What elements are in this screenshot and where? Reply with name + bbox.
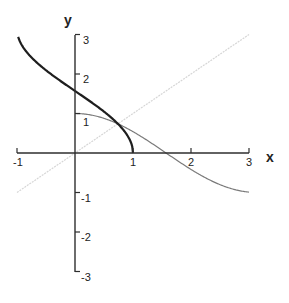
y-tick-label: 2: [83, 73, 89, 85]
y-tick-label: -1: [81, 192, 91, 204]
x-axis-label: x: [266, 149, 274, 165]
x-tick-label: 1: [130, 156, 136, 168]
function-plot: -1123-3-2-1123 x y: [0, 0, 289, 303]
x-tick-label: -1: [13, 156, 23, 168]
y-tick-label: -3: [81, 271, 91, 283]
y-tick-label: 1: [83, 116, 89, 128]
y-tick-label: -2: [81, 231, 91, 243]
series-x-curve: [17, 35, 249, 193]
y-axis-label: y: [64, 12, 72, 28]
x-tick-label: 2: [188, 156, 194, 168]
tick-layer: -1123-3-2-1123: [13, 34, 252, 283]
x-tick-label: 3: [246, 156, 252, 168]
series-layer: [17, 35, 249, 193]
y-tick-label: 3: [83, 34, 89, 46]
